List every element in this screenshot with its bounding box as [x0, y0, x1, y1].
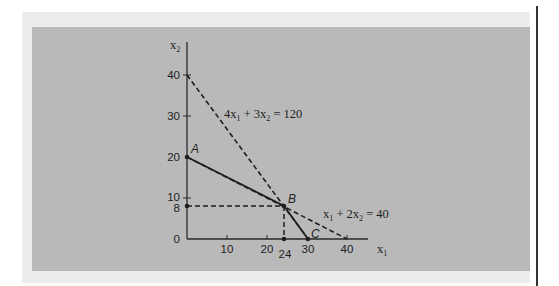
constraint-1-equation: 4x1 + 3x2 = 120: [224, 107, 302, 123]
x-tick-label-10: 10: [221, 243, 234, 255]
y-tick-label-30: 30: [167, 110, 180, 122]
lp-graph: x2 40 30 20 10 8 0 10 20 24 30 40 x1 A B…: [0, 0, 559, 286]
x-axis-label: x1: [377, 242, 387, 258]
y-tick-label-0: 0: [174, 233, 180, 245]
y-tick-label-40: 40: [167, 69, 180, 81]
y-tick-label-20: 20: [167, 151, 180, 163]
x24-marker: [282, 237, 287, 242]
point-c-marker: [306, 237, 311, 242]
point-c-label: C: [311, 227, 320, 241]
constraint-2-equation: x1 + 2x2 = 40: [323, 207, 389, 223]
x-tick-label-20: 20: [261, 243, 274, 255]
y8-marker: [185, 204, 190, 209]
x-tick-label-30: 30: [302, 243, 315, 255]
x-tick-label-24: 24: [279, 248, 292, 260]
point-b-label: B: [288, 192, 296, 206]
point-b-marker: [282, 204, 287, 209]
point-a-label: A: [190, 142, 199, 156]
y-tick-label-8: 8: [174, 202, 180, 214]
point-a-marker: [185, 155, 190, 160]
x-tick-label-40: 40: [341, 243, 354, 255]
y-axis-label: x2: [170, 38, 180, 54]
